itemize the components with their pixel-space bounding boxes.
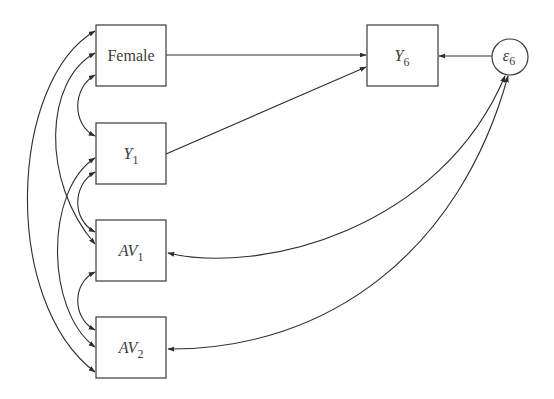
cov-av1-av2	[78, 272, 95, 330]
node-av1: AV1	[96, 220, 166, 281]
edge-y1-to-y6	[166, 67, 366, 154]
node-e6-subscript: 6	[509, 54, 515, 68]
cov-av1-e6	[168, 76, 505, 258]
path-diagram: Female Y1 AV1 AV2 Y6 ε6	[0, 0, 554, 399]
node-av1-label: AV	[118, 242, 140, 259]
node-y6: Y6	[367, 25, 438, 86]
node-e6: ε6	[492, 39, 528, 75]
node-y1: Y1	[96, 123, 166, 184]
cov-av2-e6	[168, 76, 508, 349]
node-av2-subscript: 2	[137, 347, 143, 361]
node-y1-subscript: 1	[132, 153, 138, 167]
node-y6-subscript: 6	[403, 55, 409, 69]
node-female-label: Female	[107, 47, 154, 64]
node-av2-label: AV	[118, 339, 140, 356]
node-female: Female	[96, 25, 166, 86]
node-av2: AV2	[96, 317, 166, 378]
cov-female-y1	[78, 75, 95, 136]
node-av1-subscript: 1	[137, 250, 143, 264]
